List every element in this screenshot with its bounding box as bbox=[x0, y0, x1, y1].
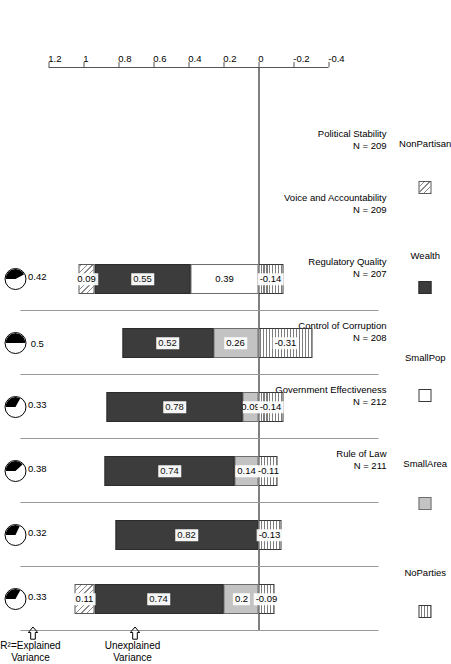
category-label: Voice and AccountabilityN = 209 bbox=[236, 192, 386, 216]
legend-label-noparties: NoParties bbox=[404, 568, 446, 578]
value-axis bbox=[48, 67, 328, 68]
bar-segment-label: 0.74 bbox=[158, 465, 181, 477]
category-name: Voice and Accountability bbox=[236, 192, 386, 204]
unexplained-variance-value: 0.38 bbox=[28, 464, 47, 474]
category-sample-size: N = 209 bbox=[236, 140, 386, 152]
axis-tick-label: 0.2 bbox=[223, 54, 236, 64]
panel-separator bbox=[20, 438, 378, 439]
explained-variance-arrow-icon bbox=[24, 626, 35, 640]
panel-separator bbox=[20, 374, 378, 375]
variance-pie-chart bbox=[4, 524, 26, 546]
bar-segment-label: 0.11 bbox=[73, 593, 95, 605]
unexplained-variance-header-line2: Variance bbox=[86, 652, 178, 664]
bar-segment-wealth[interactable]: 0.82 bbox=[115, 520, 259, 550]
bar-segment-label: 0.2 bbox=[232, 593, 249, 605]
bar-segment-label: -0.09 bbox=[253, 593, 279, 605]
bar-segment-label: 0.55 bbox=[130, 273, 153, 285]
bar-segment-noparties[interactable]: -0.14 bbox=[258, 392, 283, 422]
unexplained-variance-value: 0.42 bbox=[28, 272, 47, 282]
axis-tick-label: -0.4 bbox=[328, 54, 344, 64]
unexplained-variance-value: 0.33 bbox=[28, 592, 47, 602]
legend-swatch-noparties bbox=[418, 605, 431, 618]
bar-segment-label: -0.14 bbox=[257, 273, 283, 285]
bar-segment-label: 0.26 bbox=[224, 337, 247, 349]
panel-separator bbox=[20, 566, 378, 567]
bar-segment-noparties[interactable]: -0.14 bbox=[258, 264, 283, 294]
category-name: Political Stability bbox=[236, 128, 386, 140]
category-sample-size: N = 209 bbox=[236, 204, 386, 216]
bar-segment-label: -0.11 bbox=[255, 465, 280, 477]
explained-variance-header-line2: Variance bbox=[0, 652, 76, 664]
legend-label-nonpartisan: NonPartisan bbox=[399, 139, 451, 149]
legend-swatch-nonpartisan bbox=[418, 181, 431, 194]
bar-segment-label: -0.14 bbox=[257, 401, 283, 413]
variance-pie-chart bbox=[4, 268, 26, 290]
unexplained-variance-value: 0.33 bbox=[28, 400, 47, 410]
axis-tick-label: 0 bbox=[258, 54, 263, 64]
legend-swatch-smallarea bbox=[418, 497, 431, 510]
legend-swatch-wealth bbox=[418, 281, 431, 294]
unexplained-variance-value: 0.32 bbox=[28, 528, 47, 538]
bar-segment-wealth[interactable]: 0.74 bbox=[94, 584, 224, 614]
variance-pie-chart bbox=[4, 588, 26, 610]
explained-variance-header-line1: R²=Explained bbox=[0, 640, 76, 652]
bar-segment-wealth[interactable]: 0.52 bbox=[122, 328, 213, 358]
axis-tick-label: 0.8 bbox=[118, 54, 131, 64]
bar-segment-label: -0.31 bbox=[272, 337, 298, 349]
bar-segment-noparties[interactable]: -0.11 bbox=[258, 456, 277, 486]
bar-segment-label: 0.52 bbox=[156, 337, 179, 349]
bar-segment-label: -0.13 bbox=[257, 529, 283, 541]
unexplained-variance-header-line1: Unexplained bbox=[86, 640, 178, 652]
bar-segment-wealth[interactable]: 0.55 bbox=[94, 264, 190, 294]
panel-separator bbox=[20, 630, 378, 631]
unexplained-variance-header: UnexplainedVariance bbox=[86, 640, 178, 664]
bar-segment-noparties[interactable]: -0.13 bbox=[258, 520, 281, 550]
bar-segment-label: 0.14 bbox=[235, 465, 258, 477]
unexplained-variance-value: 0.5 bbox=[30, 339, 43, 349]
bar-segment-smallarea[interactable]: 0.09 bbox=[242, 392, 258, 422]
bar-segment-nonpartisan[interactable]: 0.11 bbox=[74, 584, 93, 614]
explained-variance-header: R²=ExplainedVariance bbox=[0, 640, 76, 664]
panel-separator bbox=[20, 502, 378, 503]
bar-segment-smallarea[interactable]: 0.14 bbox=[234, 456, 259, 486]
legend-label-smallarea: SmallArea bbox=[403, 459, 447, 469]
bar-segment-noparties[interactable]: -0.09 bbox=[258, 584, 274, 614]
bar-segment-label: 0.09 bbox=[74, 273, 97, 285]
axis-tick-label: 0.6 bbox=[153, 54, 166, 64]
variance-pie-chart bbox=[4, 332, 26, 354]
variance-pie-chart bbox=[4, 460, 26, 482]
axis-tick-label: -0.2 bbox=[293, 54, 309, 64]
legend-swatch-smallpop bbox=[418, 389, 431, 402]
axis-tick-label: 1.2 bbox=[48, 54, 61, 64]
unexplained-variance-arrow-icon bbox=[126, 626, 137, 640]
axis-tick-label: 1 bbox=[83, 54, 88, 64]
bar-segment-label: 0.39 bbox=[213, 273, 236, 285]
bar-segment-wealth[interactable]: 0.74 bbox=[104, 456, 234, 486]
legend-label-wealth: Wealth bbox=[410, 251, 439, 261]
category-label: Political StabilityN = 209 bbox=[236, 128, 386, 152]
bar-segment-label: 0.74 bbox=[147, 593, 170, 605]
bar-segment-nonpartisan[interactable]: 0.09 bbox=[78, 264, 94, 294]
legend-label-smallpop: SmallPop bbox=[404, 353, 445, 363]
bar-segment-label: 0.78 bbox=[163, 401, 186, 413]
bar-segment-label: 0.82 bbox=[175, 529, 198, 541]
panel-separator bbox=[20, 310, 378, 311]
bar-segment-smallarea[interactable]: 0.26 bbox=[213, 328, 259, 358]
variance-pie-chart bbox=[4, 396, 26, 418]
bar-segment-wealth[interactable]: 0.78 bbox=[106, 392, 243, 422]
axis-tick-label: 0.4 bbox=[188, 54, 201, 64]
bar-segment-noparties[interactable]: -0.31 bbox=[258, 328, 312, 358]
bar-segment-smallpop[interactable]: 0.39 bbox=[190, 264, 258, 294]
